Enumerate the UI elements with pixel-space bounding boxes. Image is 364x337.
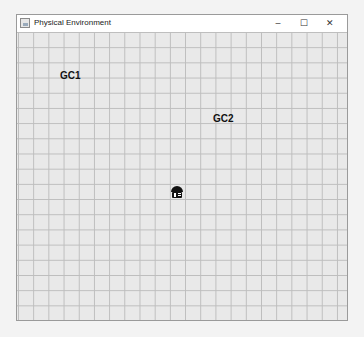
physical-environment-window: Physical Environment – ☐ ✕ GC1 GC2 xyxy=(16,14,348,321)
location-label-gc2: GC2 xyxy=(213,113,234,124)
grid-canvas[interactable]: GC1 GC2 xyxy=(17,32,347,320)
robot-agent-icon xyxy=(170,185,184,199)
title-bar[interactable]: Physical Environment – ☐ ✕ xyxy=(17,15,347,32)
window-title: Physical Environment xyxy=(34,18,111,27)
java-app-icon xyxy=(20,18,30,28)
close-button[interactable]: ✕ xyxy=(317,16,343,30)
minimize-button[interactable]: – xyxy=(265,16,291,30)
maximize-button[interactable]: ☐ xyxy=(291,16,317,30)
location-label-gc1: GC1 xyxy=(60,70,81,81)
